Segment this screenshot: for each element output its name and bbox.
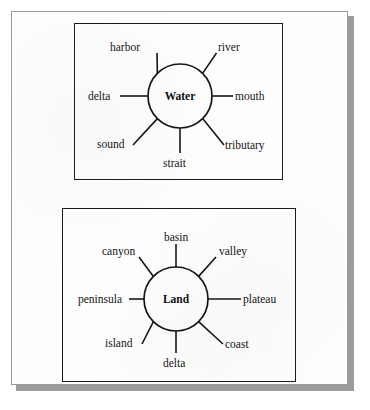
spoke-label-basin: basin: [164, 231, 189, 243]
spoke-label-peninsula: peninsula: [78, 293, 122, 306]
spoke-line-canyon: [139, 257, 153, 276]
land-word-web: Landbasincanyonvalleypeninsulaplateauisl…: [0, 0, 370, 410]
spoke-label-plateau: plateau: [243, 293, 276, 306]
spoke-label-delta: delta: [163, 357, 185, 369]
spoke-line-valley: [199, 257, 216, 276]
spoke-label-canyon: canyon: [102, 245, 135, 258]
spoke-label-coast: coast: [225, 338, 249, 350]
spoke-label-island: island: [105, 337, 133, 349]
land-hub-label: Land: [163, 293, 190, 305]
spoke-line-coast: [199, 322, 223, 344]
spoke-label-valley: valley: [219, 245, 247, 258]
spoke-line-island: [142, 322, 153, 344]
